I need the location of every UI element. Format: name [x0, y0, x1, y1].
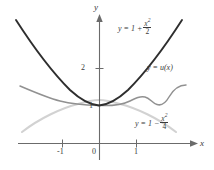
label-lower-equation: y = 1 −x24 — [135, 113, 169, 131]
x-tick-label-minus1: -1 — [57, 148, 64, 156]
squeeze-theorem-figure: y x -1 0 1 1 2 y = 1 +x22 y = u(x) y = 1… — [0, 0, 214, 170]
curve-u-of-x — [20, 85, 186, 106]
x-axis-arrow — [190, 140, 198, 146]
y-tick-label-2: 2 — [81, 64, 85, 72]
label-upper-fraction: x22 — [143, 18, 151, 36]
label-lower-denominator: 4 — [160, 122, 168, 131]
y-tick-label-1: 1 — [89, 102, 93, 110]
label-lower-lhs: y = 1 − — [135, 119, 159, 128]
y-axis-arrow — [96, 14, 102, 22]
label-lower-fraction: x24 — [160, 113, 168, 131]
label-lower-exponent: 2 — [165, 112, 168, 118]
label-middle-equation: y = u(x) — [147, 64, 173, 72]
x-tick-label-0: 0 — [92, 148, 96, 156]
x-axis-label: x — [200, 139, 204, 148]
graph-canvas — [0, 0, 214, 170]
label-upper-numerator: x2 — [143, 18, 151, 27]
label-upper-exponent: 2 — [148, 17, 151, 23]
label-lower-numerator: x2 — [160, 113, 168, 122]
x-tick-label-1: 1 — [134, 148, 138, 156]
label-upper-denominator: 2 — [143, 27, 151, 36]
label-upper-lhs: y = 1 + — [118, 24, 142, 33]
y-axis-label: y — [94, 3, 98, 12]
label-upper-equation: y = 1 +x22 — [118, 18, 152, 36]
